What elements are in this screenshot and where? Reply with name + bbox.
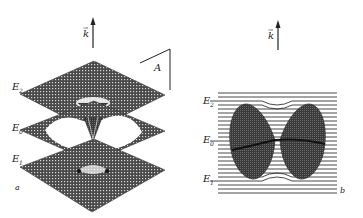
- k-axis-arrow-a: [91, 17, 96, 48]
- vector-mark-a: →: [83, 24, 88, 31]
- panel-label-b: b: [340, 186, 345, 195]
- panel-b: k → E 2 E 0 E 1 b: [202, 20, 345, 195]
- level-line: [218, 177, 337, 181]
- level-line: [218, 101, 337, 105]
- level-line: [218, 105, 337, 109]
- level-label-e1-a: E 1: [11, 153, 23, 166]
- level-label-e0-b: E 0: [202, 134, 214, 147]
- plane-e1: [20, 139, 165, 212]
- svg-text:2: 2: [18, 87, 23, 94]
- vector-mark-b: →: [268, 26, 273, 33]
- panel-label-a: a: [15, 183, 20, 192]
- svg-text:2: 2: [209, 101, 214, 108]
- svg-text:1: 1: [210, 179, 214, 186]
- corner-label-a: A: [153, 62, 161, 73]
- level-line: [218, 173, 337, 177]
- svg-text:0: 0: [19, 128, 23, 135]
- svg-text:1: 1: [19, 159, 23, 166]
- k-axis-arrow-b: [276, 20, 281, 50]
- lobes: [230, 104, 326, 179]
- level-label-e2-a: E 2: [11, 81, 23, 94]
- level-label-e0-a: E 0: [11, 122, 23, 135]
- level-label-e1-b: E 1: [202, 173, 214, 186]
- level-label-e2-b: E 2: [202, 95, 214, 108]
- svg-text:0: 0: [210, 140, 214, 147]
- figure: k → A: [0, 0, 363, 218]
- panel-a: k → A: [11, 17, 170, 212]
